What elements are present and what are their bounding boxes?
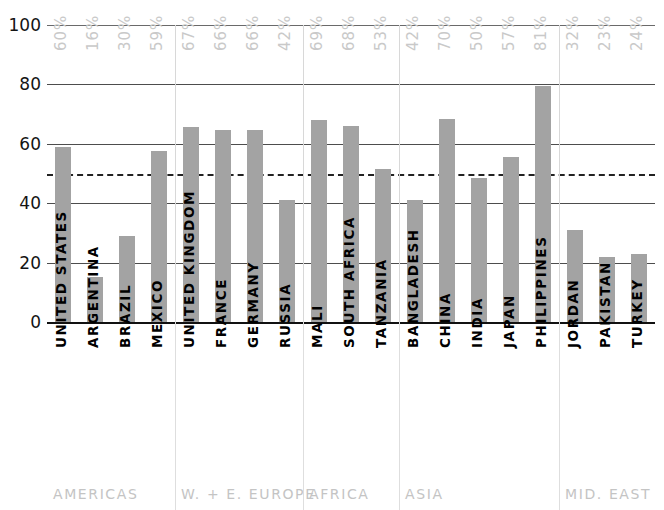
category-label: MEXICO [149, 279, 165, 348]
category-label: ARGENTINA [85, 245, 101, 348]
bar-value-label: 68% [340, 15, 358, 51]
category-label: FRANCE [213, 278, 229, 348]
y-axis-tick-label: 100 [9, 15, 41, 35]
region-separator [399, 25, 400, 322]
category-label: PAKISTAN [597, 261, 613, 348]
category-label: PHILIPPINES [533, 236, 549, 349]
category-label: TANZANIA [373, 258, 389, 348]
y-axis-tick-label: 60 [19, 134, 41, 154]
category-label: TURKEY [629, 278, 645, 348]
bar-value-label: 16% [84, 15, 102, 51]
bar-value-label: 70% [436, 15, 454, 51]
bar-value-label: 24% [628, 15, 646, 51]
bar-value-label: 66% [212, 15, 230, 51]
y-axis: 020406080100 [0, 0, 45, 510]
bar-value-label: 42% [276, 15, 294, 51]
bar-value-label: 23% [596, 15, 614, 51]
gridline [47, 84, 655, 85]
category-label: JAPAN [501, 294, 517, 348]
bar-value-label: 66% [244, 15, 262, 51]
bar-chart: 020406080100 60%16%30%59%67%66%66%42%69%… [0, 0, 664, 510]
category-label: BRAZIL [117, 284, 133, 348]
category-label: UNITED KINGDOM [181, 190, 197, 348]
category-label: GERMANY [245, 261, 261, 348]
category-label: JORDAN [565, 279, 581, 348]
bar-value-label: 60% [52, 15, 70, 51]
category-label: SOUTH AFRICA [341, 216, 357, 348]
category-label: MALI [309, 304, 325, 348]
bar-value-label: 59% [148, 15, 166, 51]
category-label: CHINA [437, 292, 453, 348]
region-separator [559, 322, 560, 510]
bar-value-label: 30% [116, 15, 134, 51]
bar-value-label: 81% [532, 15, 550, 51]
region-separator [303, 322, 304, 510]
bar-value-label: 69% [308, 15, 326, 51]
region-separator [559, 25, 560, 322]
region-separator [175, 322, 176, 510]
y-axis-tick-label: 20 [19, 253, 41, 273]
bar-value-label: 53% [372, 15, 390, 51]
region-label: MID. EAST [565, 486, 651, 502]
bar-value-label: 67% [180, 15, 198, 51]
bar [311, 120, 327, 322]
category-label: UNITED STATES [53, 210, 69, 348]
bar-value-label: 57% [500, 15, 518, 51]
region-label: W. + E. EUROPE [181, 486, 316, 502]
bar-value-label: 42% [404, 15, 422, 51]
y-axis-tick-label: 40 [19, 193, 41, 213]
region-label: AMERICAS [53, 486, 138, 502]
category-label: INDIA [469, 297, 485, 348]
region-separator [399, 322, 400, 510]
region-separator [303, 25, 304, 322]
region-label: AFRICA [309, 486, 369, 502]
category-label: RUSSIA [277, 283, 293, 348]
y-axis-tick-label: 0 [30, 312, 41, 332]
category-label: BANGLADESH [405, 228, 421, 348]
y-axis-tick-label: 80 [19, 74, 41, 94]
bar-value-label: 50% [468, 15, 486, 51]
region-separator [175, 25, 176, 322]
region-label: ASIA [405, 486, 444, 502]
bar-value-label: 32% [564, 15, 582, 51]
category-labels-layer: AMERICASW. + E. EUROPEAFRICAASIAMID. EAS… [47, 322, 655, 510]
